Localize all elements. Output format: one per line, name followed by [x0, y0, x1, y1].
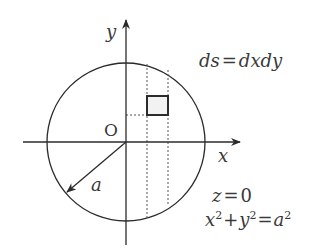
area-element-equation: ds=dxdy [199, 50, 283, 71]
circle-region-diagram: y x O a ds=dxdy z=0 x2+y2=a2 [0, 0, 320, 252]
equation-dxdy: dxdy [239, 50, 283, 71]
equation-zero: 0 [241, 185, 252, 206]
plane-equation: z=0 [211, 185, 252, 206]
area-element-square [147, 96, 168, 115]
equation-x: x [205, 209, 215, 230]
equation-equals: = [223, 185, 238, 206]
equation-equals: = [222, 50, 237, 71]
equation-equals: = [257, 209, 272, 230]
equation-y-exponent: 2 [249, 209, 256, 222]
x-axis-label: x [218, 145, 228, 166]
equation-z: z [211, 185, 222, 206]
equation-a-exponent: 2 [284, 209, 291, 222]
circle-equation: x2+y2=a2 [205, 209, 291, 230]
equation-x-exponent: 2 [215, 209, 222, 222]
y-axis-label: y [105, 21, 117, 42]
origin-label: O [104, 120, 118, 140]
radius-label: a [91, 174, 102, 195]
equation-ds: ds [199, 50, 220, 71]
equation-plus: + [223, 209, 238, 230]
equation-a: a [274, 209, 285, 230]
